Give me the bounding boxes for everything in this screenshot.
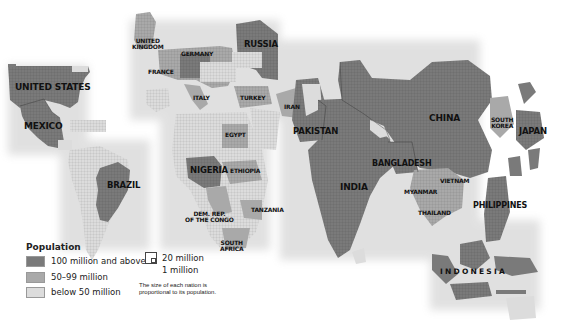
label-italy: ITALY: [193, 95, 210, 101]
scale-note-line-2: proportional to its population.: [139, 289, 216, 296]
legend-item-high: 100 million and above: [26, 256, 146, 266]
label-germany: GERMANY: [181, 51, 213, 57]
label-dem-rep-congo: DEM. REP.OF THE CONGO: [185, 211, 234, 223]
label-philippines: PHILIPPINES: [473, 202, 527, 210]
legend-item-mid: 50–99 million: [26, 272, 108, 282]
label-united-kingdom: UNITEDKINGDOM: [132, 38, 163, 50]
label-vietnam: VIETNAM: [440, 178, 469, 184]
legend-item-low: below 50 million: [26, 287, 121, 297]
scale-note-line-1: The size of each nation is: [139, 282, 216, 289]
label-thailand: THAILAND: [418, 210, 451, 216]
label-ethiopia: ETHIOPIA: [230, 168, 260, 174]
legend-title: Population: [26, 242, 81, 252]
legend-swatch-low: [26, 287, 45, 298]
label-nigeria: NIGERIA: [190, 166, 228, 175]
label-russia: RUSSIA: [244, 40, 278, 49]
label-indonesia: I N D O N E S I A: [440, 268, 505, 276]
scale-label-small: 1 million: [162, 265, 198, 275]
label-pakistan: PAKISTAN: [293, 127, 338, 136]
label-myanmar: MYANMAR: [404, 189, 437, 195]
legend-label-mid: 50–99 million: [51, 272, 108, 282]
label-china: CHINA: [429, 114, 460, 123]
label-south-korea: SOUTHKOREA: [491, 117, 513, 129]
label-iran: IRAN: [284, 104, 300, 110]
legend-label-low: below 50 million: [51, 287, 121, 297]
label-tanzania: TANZANIA: [251, 207, 284, 213]
label-brazil: BRAZIL: [107, 181, 140, 190]
label-india: INDIA: [340, 183, 368, 192]
label-japan: JAPAN: [519, 127, 547, 136]
legend-swatch-mid: [26, 272, 45, 283]
legend-label-high: 100 million and above: [51, 256, 146, 266]
label-bangladesh: BANGLADESH: [372, 160, 431, 168]
label-egypt: EGYPT: [225, 132, 246, 138]
label-france: FRANCE: [148, 69, 174, 75]
label-mexico: MEXICO: [24, 122, 62, 131]
label-united-states: UNITED STATES: [15, 83, 90, 92]
scale-note: The size of each nation is proportional …: [139, 282, 216, 296]
scale-label-large: 20 million: [162, 253, 204, 263]
scale-square-small-icon: [151, 258, 156, 263]
label-turkey: TURKEY: [240, 95, 265, 101]
legend-swatch-high: [26, 256, 45, 267]
